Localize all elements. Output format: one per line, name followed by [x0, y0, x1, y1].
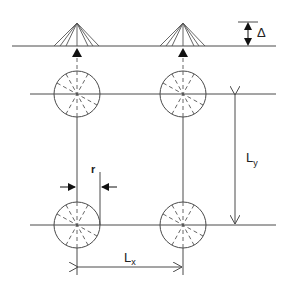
delta-label: Δ — [257, 25, 266, 40]
slab-column-diagram: Δ — [0, 0, 291, 293]
lx-dimension: Lx — [78, 250, 182, 267]
dashed-axes — [77, 58, 183, 71]
peak-cone-right — [160, 23, 205, 46]
support-arrow-left — [72, 48, 82, 57]
lx-label: Lx — [124, 250, 136, 267]
ly-label: Ly — [246, 150, 258, 168]
grid-lines — [30, 94, 276, 275]
peak-cone-left — [54, 23, 99, 46]
delta-dimension: Δ — [238, 22, 266, 46]
support-arrow-right — [178, 48, 188, 57]
radius-dimension: r — [60, 163, 117, 225]
radius-label: r — [91, 163, 96, 175]
ly-dimension: Ly — [235, 95, 258, 224]
deflection-profile: Δ — [12, 22, 276, 57]
